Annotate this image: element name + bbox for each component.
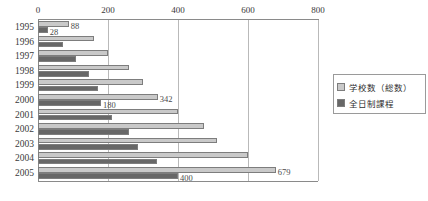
x-tick-label-400: 400 — [171, 5, 185, 15]
bar-total-2004 — [38, 152, 248, 158]
figure-caption — [92, 192, 428, 201]
y-axis-label-2005: 2005 — [2, 166, 34, 181]
x-tick-label-800: 800 — [311, 5, 325, 15]
chart-row: 2003 — [0, 137, 428, 152]
bar-fulltime-2000 — [38, 100, 101, 106]
legend-swatch-fulltime-icon — [337, 99, 345, 107]
bar-total-2005 — [38, 167, 276, 173]
chart-row: 1997 — [0, 49, 428, 64]
y-axis-label-2003: 2003 — [2, 137, 34, 152]
plot-bottom-border — [38, 181, 318, 182]
bar-chart: 0200400600800 19958828199619971998199920… — [0, 0, 428, 201]
y-axis-label-1998: 1998 — [2, 64, 34, 79]
bar-total-2001 — [38, 109, 178, 115]
bar-total-2002 — [38, 123, 204, 129]
y-axis-label-1999: 1999 — [2, 78, 34, 93]
bar-fulltime-1999 — [38, 86, 98, 92]
bar-fulltime-1996 — [38, 42, 63, 48]
value-label-total-2000: 342 — [160, 95, 173, 103]
legend-swatch-total-icon — [337, 83, 345, 91]
y-axis-label-2004: 2004 — [2, 151, 34, 166]
bar-total-1999 — [38, 79, 143, 85]
bar-fulltime-2001 — [38, 115, 112, 121]
bar-total-1996 — [38, 36, 94, 42]
y-axis-label-1997: 1997 — [2, 49, 34, 64]
bar-fulltime-1997 — [38, 56, 76, 62]
legend-item-fulltime[interactable]: 全日制課程 — [337, 95, 422, 111]
x-tick-label-600: 600 — [241, 5, 255, 15]
bar-total-1995 — [38, 21, 69, 27]
y-axis-label-1995: 1995 — [2, 20, 34, 35]
bar-fulltime-1995 — [38, 27, 48, 33]
chart-row: 19958828 — [0, 20, 428, 35]
value-label-total-1995: 88 — [71, 22, 80, 30]
chart-row: 2005679400 — [0, 166, 428, 181]
x-tick-label-200: 200 — [101, 5, 115, 15]
legend-item-total[interactable]: 学校数（総数） — [337, 79, 422, 95]
x-tick-label-0: 0 — [36, 5, 41, 15]
bar-fulltime-1998 — [38, 71, 89, 77]
value-label-fulltime-2005: 400 — [180, 174, 193, 182]
legend-label-fulltime: 全日制課程 — [349, 97, 394, 109]
bar-total-1997 — [38, 50, 108, 56]
bar-total-2003 — [38, 138, 217, 144]
y-axis-label-2000: 2000 — [2, 93, 34, 108]
bar-total-1998 — [38, 65, 129, 71]
y-axis-label-1996: 1996 — [2, 35, 34, 50]
bar-fulltime-2003 — [38, 144, 138, 150]
y-axis-label-2002: 2002 — [2, 122, 34, 137]
y-axis-label-2001: 2001 — [2, 108, 34, 123]
bar-fulltime-2002 — [38, 129, 129, 135]
bar-total-2000 — [38, 94, 158, 100]
value-label-total-2005: 679 — [278, 168, 291, 176]
chart-legend: 学校数（総数） 全日制課程 — [333, 74, 426, 114]
chart-row: 2002 — [0, 122, 428, 137]
legend-label-total: 学校数（総数） — [349, 81, 412, 93]
bar-fulltime-2004 — [38, 159, 157, 165]
bar-fulltime-2005 — [38, 173, 178, 179]
chart-row: 1996 — [0, 35, 428, 50]
chart-row: 2004 — [0, 151, 428, 166]
